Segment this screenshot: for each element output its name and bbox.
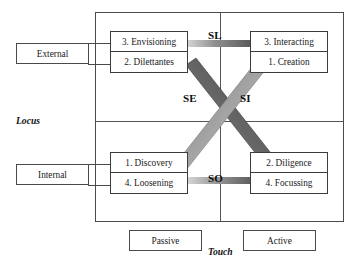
quadrant-item-dilettantes: 2. Dilettantes bbox=[111, 52, 187, 72]
quadrant-item-envisioning: 3. Envisioning bbox=[111, 32, 187, 52]
diagram-canvas: 3. Envisioning 2. Dilettantes 3. Interac… bbox=[0, 0, 361, 268]
quadrant-box-top-left[interactable]: 3. Envisioning 2. Dilettantes bbox=[110, 31, 188, 73]
quadrant-item-focussing: 4. Focussing bbox=[251, 173, 327, 193]
connector-external-top bbox=[88, 43, 112, 44]
band-label-si: SI bbox=[240, 92, 251, 104]
connector-external-bottom bbox=[88, 64, 112, 65]
quadrant-box-top-right[interactable]: 3. Interacting 1. Creation bbox=[250, 31, 328, 73]
connector-internal-top bbox=[88, 164, 112, 165]
band-label-sl: SL bbox=[208, 29, 222, 41]
axis-label-internal: Internal bbox=[16, 164, 89, 185]
connector-internal-bottom bbox=[88, 185, 112, 186]
quadrant-item-diligence: 2. Diligence bbox=[251, 153, 327, 173]
quadrant-item-creation: 1. Creation bbox=[251, 52, 327, 72]
quadrant-box-bottom-left[interactable]: 1. Discovery 4. Loosening bbox=[110, 152, 188, 194]
quadrant-box-bottom-right[interactable]: 2. Diligence 4. Focussing bbox=[250, 152, 328, 194]
axis-title-locus: Locus bbox=[16, 115, 40, 126]
axis-label-active: Active bbox=[243, 230, 316, 251]
quadrant-item-discovery: 1. Discovery bbox=[111, 153, 187, 173]
axis-label-passive: Passive bbox=[129, 230, 202, 251]
band-label-so: SO bbox=[208, 172, 223, 184]
axis-title-touch: Touch bbox=[208, 246, 233, 257]
quadrant-item-interacting: 3. Interacting bbox=[251, 32, 327, 52]
axis-label-external: External bbox=[16, 43, 89, 64]
band-label-se: SE bbox=[183, 92, 197, 104]
vertical-axis-divider bbox=[220, 12, 221, 222]
quadrant-item-loosening: 4. Loosening bbox=[111, 173, 187, 193]
